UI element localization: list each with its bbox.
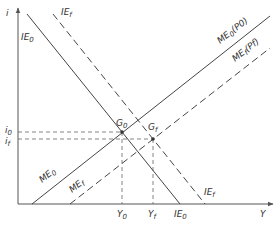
ie0-bottom-label: IE0 <box>174 209 187 221</box>
mef-top-label: MEf(Pf) <box>230 36 262 65</box>
me0-curve <box>32 16 270 204</box>
yf-tick-label: Yf <box>148 209 158 221</box>
ief-curve <box>53 14 205 204</box>
mef-curve <box>70 48 270 204</box>
y0-tick-label: Y0 <box>117 209 128 221</box>
g0-point <box>120 130 124 134</box>
if-tick-label: if <box>5 136 12 148</box>
mef-bottom-label: MEf <box>67 176 88 196</box>
ief-top-label: IEf <box>61 7 73 19</box>
is-lm-diagram: i Y IE0 IEf ME0(P0) MEf(Pf) ME0 MEf IEf … <box>0 0 280 226</box>
ie0-top-label: IE0 <box>21 32 34 44</box>
gf-label: Gf <box>148 122 159 134</box>
g0-label: G0 <box>116 118 128 130</box>
me0-bottom-label: ME0 <box>37 165 59 186</box>
gf-point <box>151 137 155 141</box>
ief-bottom-label: IEf <box>204 187 216 199</box>
y-axis-label: i <box>6 8 9 18</box>
x-axis-label: Y <box>260 209 267 219</box>
